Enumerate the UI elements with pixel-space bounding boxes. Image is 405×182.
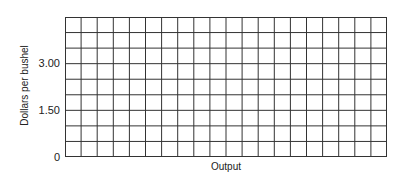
x-axis-label: Output (0, 161, 405, 172)
chart-grid (65, 17, 387, 157)
y-axis-label: Dollars per bushel (19, 26, 30, 146)
